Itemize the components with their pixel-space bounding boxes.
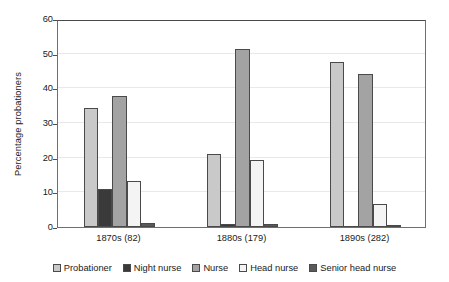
bar-nurse[interactable] — [112, 96, 126, 227]
y-axis-tick — [53, 228, 57, 229]
bar-head-nurse[interactable] — [373, 204, 387, 227]
chart-legend: ProbationerNight nurseNurseHead nurseSen… — [0, 259, 449, 276]
y-axis-tick-label: 60 — [13, 15, 53, 24]
legend-label: Probationer — [64, 263, 112, 273]
y-axis-tick-label: 50 — [13, 50, 53, 59]
bar-nurse[interactable] — [235, 49, 249, 227]
legend-item-night-nurse[interactable]: Night nurse — [123, 263, 182, 273]
legend-swatch-icon — [239, 264, 247, 272]
x-axis-label: 1880s (179) — [180, 233, 303, 243]
legend-item-probationer[interactable]: Probationer — [53, 263, 112, 273]
bar-senior-head-nurse[interactable] — [141, 223, 155, 227]
bar-senior-head-nurse[interactable] — [387, 225, 401, 227]
legend-swatch-icon — [53, 264, 61, 272]
bar-senior-head-nurse[interactable] — [264, 224, 278, 227]
legend-item-senior-head-nurse[interactable]: Senior head nurse — [309, 263, 396, 273]
x-axis-label: 1890s (282) — [303, 233, 426, 243]
bar-night-nurse[interactable] — [221, 224, 235, 227]
chart-figure: Percentage probationers 0102030405060 18… — [0, 0, 449, 282]
legend-label: Senior head nurse — [320, 263, 396, 273]
bar-probationer[interactable] — [330, 62, 344, 227]
bar-head-nurse[interactable] — [250, 160, 264, 227]
y-axis-tick-label: 0 — [13, 223, 53, 232]
legend-item-head-nurse[interactable]: Head nurse — [239, 263, 298, 273]
y-axis-tick-label: 10 — [13, 188, 53, 197]
legend-label: Nurse — [203, 263, 228, 273]
bar-night-nurse[interactable] — [344, 226, 358, 227]
plot-inner — [58, 21, 425, 227]
y-axis-tick-label: 30 — [13, 119, 53, 128]
legend-label: Night nurse — [134, 263, 182, 273]
plot-area — [57, 20, 426, 228]
y-axis-tick-label: 20 — [13, 154, 53, 163]
legend-item-nurse[interactable]: Nurse — [192, 263, 228, 273]
bar-head-nurse[interactable] — [127, 181, 141, 227]
bar-probationer[interactable] — [84, 108, 98, 227]
legend-label: Head nurse — [250, 263, 298, 273]
legend-swatch-icon — [123, 264, 131, 272]
y-axis-tick-label: 40 — [13, 84, 53, 93]
legend-swatch-icon — [192, 264, 200, 272]
x-axis-label: 1870s (82) — [57, 233, 180, 243]
legend-swatch-icon — [309, 264, 317, 272]
bar-nurse[interactable] — [358, 74, 372, 227]
bar-night-nurse[interactable] — [98, 189, 112, 227]
bar-probationer[interactable] — [207, 154, 221, 227]
